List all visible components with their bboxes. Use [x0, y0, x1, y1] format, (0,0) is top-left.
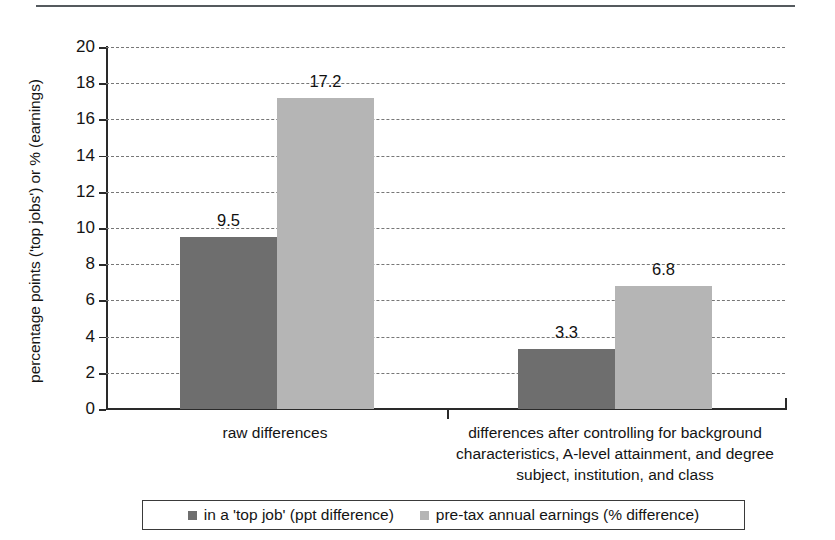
x-axis-category-line: raw differences	[170, 422, 380, 443]
y-axis-tick-mark	[99, 337, 106, 339]
y-axis-tick-label: 12	[76, 182, 95, 202]
bar-0-0	[180, 237, 277, 409]
y-axis-tick-mark	[99, 192, 106, 194]
y-axis-tick-mark	[99, 409, 106, 411]
gridline	[106, 47, 785, 48]
bar-value-label-0-0: 9.5	[217, 211, 240, 230]
y-axis-tick-label: 6	[86, 290, 95, 310]
y-axis-tick-label: 18	[76, 73, 95, 93]
y-axis-tick-mark	[99, 47, 106, 49]
x-axis-category-line: subject, institution, and class	[405, 464, 825, 485]
legend-item-top-job[interactable]: in a 'top job' (ppt difference)	[188, 506, 394, 524]
y-axis-tick-label: 14	[76, 146, 95, 166]
gridline	[106, 228, 785, 229]
gridline	[106, 119, 785, 120]
chart-legend: in a 'top job' (ppt difference) pre-tax …	[142, 500, 745, 530]
legend-swatch-icon-dark	[188, 511, 197, 520]
y-axis-tick-label: 8	[86, 254, 95, 274]
bar-1-0	[518, 349, 615, 409]
bar-value-label-1-0: 3.3	[555, 323, 578, 342]
y-axis-tick-mark	[99, 83, 106, 85]
bar-value-label-0-1: 17.2	[309, 72, 341, 91]
x-axis-category-label-1: differences after controlling for backgr…	[405, 422, 825, 485]
legend-label-top-job: in a 'top job' (ppt difference)	[204, 506, 394, 524]
y-axis-tick-mark	[99, 156, 106, 158]
gridline	[106, 192, 785, 193]
y-axis-title: percentage points ('top jobs') or % (ear…	[26, 26, 44, 436]
y-axis-tick-label: 4	[86, 327, 95, 347]
y-axis-tick-label: 10	[76, 218, 95, 238]
x-axis-category-line: characteristics, A-level attainment, and…	[405, 443, 825, 464]
y-axis-tick-label: 20	[76, 37, 95, 57]
bar-0-1	[277, 98, 374, 409]
gridline	[106, 83, 785, 84]
x-axis-right-cap	[785, 398, 787, 410]
category-separator-tick	[447, 408, 449, 419]
legend-swatch-icon-light	[420, 511, 429, 520]
x-axis-category-label-0: raw differences	[170, 422, 380, 443]
y-axis-tick-mark	[99, 264, 106, 266]
y-axis-tick-mark	[99, 119, 106, 121]
y-axis-tick-mark	[99, 300, 106, 302]
y-axis-tick-mark	[99, 228, 106, 230]
y-axis-tick-label: 16	[76, 109, 95, 129]
bar-value-label-1-1: 6.8	[652, 260, 675, 279]
plot-area: 02468101214161820 9.517.23.36.8	[106, 47, 785, 409]
gridline	[106, 156, 785, 157]
bar-chart-figure: percentage points ('top jobs') or % (ear…	[0, 0, 835, 540]
y-axis-tick-mark	[99, 373, 106, 375]
legend-item-earnings[interactable]: pre-tax annual earnings (% difference)	[420, 506, 699, 524]
y-axis-tick-label: 0	[86, 399, 95, 419]
x-axis-category-line: differences after controlling for backgr…	[405, 422, 825, 443]
bar-1-1	[615, 286, 712, 409]
legend-label-earnings: pre-tax annual earnings (% difference)	[436, 506, 699, 524]
y-axis-tick-label: 2	[86, 363, 95, 383]
